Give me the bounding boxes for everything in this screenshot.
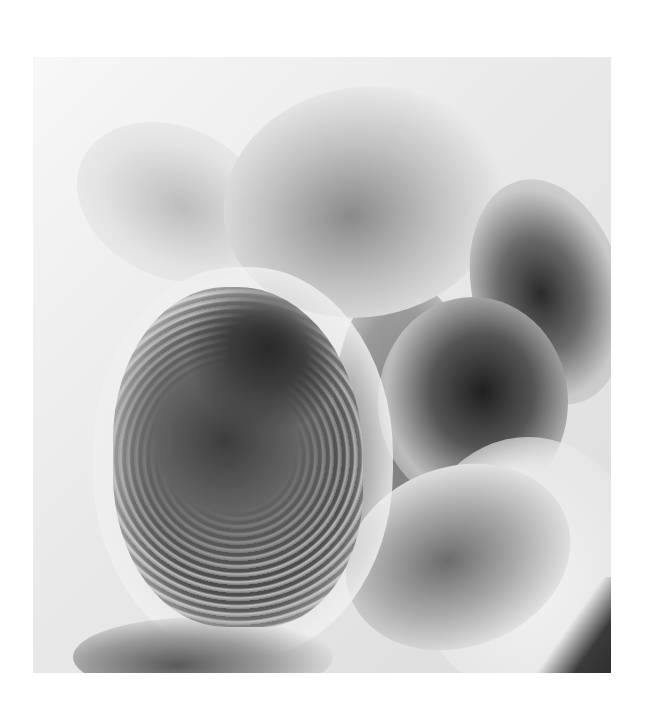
- radiograph-image: [33, 57, 611, 673]
- mass-wall-highlight: [93, 267, 393, 657]
- lower-right-dark-band: [513, 577, 611, 673]
